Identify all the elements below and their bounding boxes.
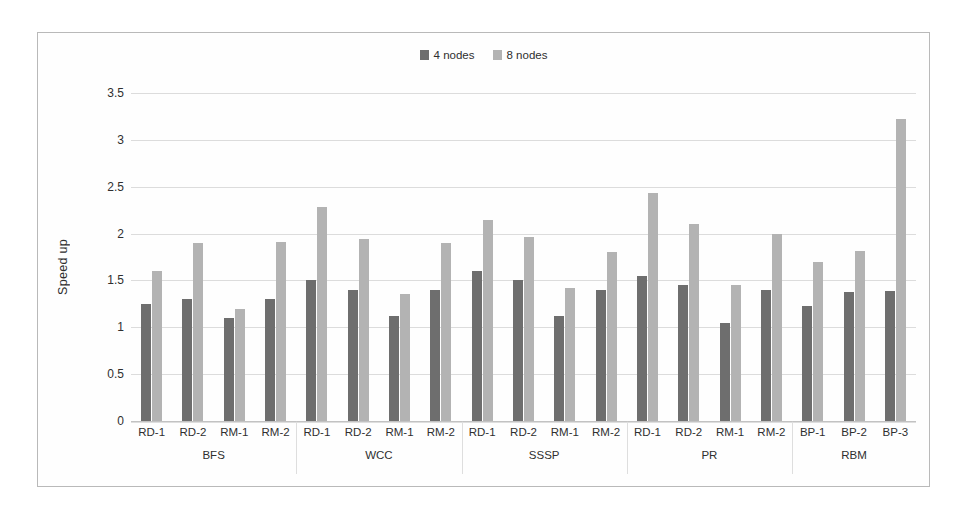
bar-group (544, 93, 585, 421)
x-group-label: PR (701, 449, 717, 461)
x-tick-label: RM-2 (262, 426, 290, 438)
bar (802, 306, 812, 421)
y-tick-label: 0 (117, 414, 124, 428)
bar (885, 291, 895, 421)
bar (400, 294, 410, 421)
bar (896, 119, 906, 421)
bar (193, 243, 203, 421)
group-separator (627, 422, 628, 474)
x-tick-label: BP-1 (800, 426, 826, 438)
x-tick-label: RM-1 (385, 426, 413, 438)
bar (472, 271, 482, 421)
bar (235, 309, 245, 421)
x-tick-label: BP-3 (883, 426, 909, 438)
y-tick-label: 1 (117, 320, 124, 334)
group-separator (296, 422, 297, 474)
bar-group (751, 93, 792, 421)
bar (182, 299, 192, 421)
legend-swatch-icon (493, 50, 502, 60)
bar-group (420, 93, 461, 421)
bar-group (214, 93, 255, 421)
bar (731, 285, 741, 421)
x-tick-label: RD-1 (138, 426, 165, 438)
bar (524, 237, 534, 421)
bar-group (338, 93, 379, 421)
bar (513, 280, 523, 421)
bar (265, 299, 275, 421)
bar-group (131, 93, 172, 421)
bar (554, 316, 564, 421)
chart-legend: 4 nodes8 nodes (38, 49, 929, 61)
y-tick-label: 2 (117, 227, 124, 241)
bar (648, 193, 658, 421)
bar-group (255, 93, 296, 421)
x-axis-label-band: RD-1RD-2RM-1RM-2RD-1RD-2RM-1RM-2RD-1RD-2… (131, 422, 916, 480)
bar (689, 224, 699, 421)
bar (720, 323, 730, 421)
x-tick-label: RM-2 (592, 426, 620, 438)
bar (637, 276, 647, 421)
x-group-label: BFS (202, 449, 224, 461)
y-tick-label: 3.5 (107, 86, 124, 100)
bar-group (172, 93, 213, 421)
bar (844, 292, 854, 421)
bar (565, 288, 575, 421)
bar (348, 290, 358, 421)
legend-item-label: 8 nodes (507, 49, 548, 61)
x-tick-label: RD-1 (634, 426, 661, 438)
bar (441, 243, 451, 421)
x-tick-label: RM-1 (551, 426, 579, 438)
x-tick-label: RD-2 (675, 426, 702, 438)
y-axis-title: Speed up (56, 239, 70, 295)
x-tick-label: RD-2 (180, 426, 207, 438)
y-tick-label: 2.5 (107, 180, 124, 194)
bar-group (875, 93, 916, 421)
bar (306, 280, 316, 421)
plot-area: 3.532.521.510.50 (131, 93, 916, 421)
bar (317, 207, 327, 421)
legend-item: 8 nodes (493, 49, 548, 61)
bar (389, 316, 399, 421)
group-separator (792, 422, 793, 474)
bar-group (462, 93, 503, 421)
bar-group (668, 93, 709, 421)
bar (141, 304, 151, 421)
bar-group (503, 93, 544, 421)
y-tick-label: 3 (117, 133, 124, 147)
bar-group (792, 93, 833, 421)
group-separator (462, 422, 463, 474)
bar-group (585, 93, 626, 421)
band-top-rule (131, 422, 916, 423)
bar (359, 239, 369, 421)
legend-item: 4 nodes (420, 49, 475, 61)
bar (813, 262, 823, 421)
x-tick-label: BP-2 (841, 426, 867, 438)
x-tick-label: RM-1 (220, 426, 248, 438)
x-tick-label: RM-2 (757, 426, 785, 438)
bar-group (627, 93, 668, 421)
y-tick-label: 1.5 (107, 273, 124, 287)
legend-item-label: 4 nodes (434, 49, 475, 61)
bar-group (296, 93, 337, 421)
x-group-label: SSSP (529, 449, 560, 461)
bar (483, 220, 493, 421)
chart-figure-frame: 4 nodes8 nodes Speed up 3.532.521.510.50… (37, 32, 930, 487)
bar (430, 290, 440, 421)
bar (607, 252, 617, 421)
y-tick-label: 0.5 (107, 367, 124, 381)
x-tick-label: RD-1 (469, 426, 496, 438)
bar-group (833, 93, 874, 421)
bar (678, 285, 688, 421)
bar-group (709, 93, 750, 421)
bars-layer (131, 93, 916, 421)
x-group-label: WCC (365, 449, 392, 461)
bar-group (379, 93, 420, 421)
bar (596, 290, 606, 421)
legend-swatch-icon (420, 50, 429, 60)
bar (152, 271, 162, 421)
bar (276, 242, 286, 421)
bar (224, 318, 234, 421)
x-tick-label: RM-2 (427, 426, 455, 438)
x-tick-label: RD-2 (345, 426, 372, 438)
bar (855, 251, 865, 421)
